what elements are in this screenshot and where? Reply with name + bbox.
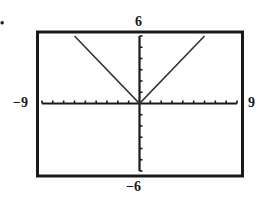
graph-window <box>0 0 257 199</box>
